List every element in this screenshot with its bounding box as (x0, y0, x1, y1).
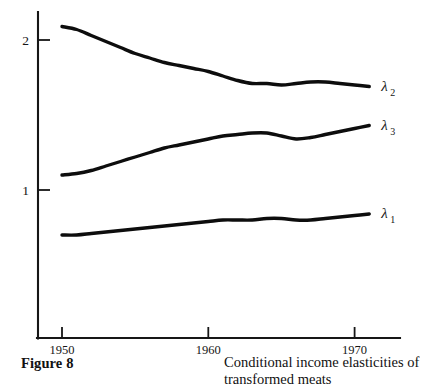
curve-lambda-2 (62, 27, 369, 87)
figure-caption-text: Conditional income elasticities of trans… (224, 354, 421, 387)
lambda-subscript: 2 (390, 87, 395, 98)
curve-lambda-3 (62, 126, 369, 176)
figure-number: Figure 8 (21, 355, 74, 372)
y-axis-ticks: 21 (22, 33, 50, 198)
curve-lambda-1 (62, 214, 369, 235)
series-label-group: λ2λ3λ1 (380, 78, 395, 226)
series-label-lambda-3: λ3 (380, 117, 395, 137)
lambda-symbol: λ (380, 205, 388, 221)
lambda-symbol: λ (380, 117, 388, 133)
x-axis-ticks: 195019601970 (50, 327, 368, 357)
series-label-lambda-1: λ1 (380, 205, 395, 225)
lambda-subscript: 1 (390, 214, 395, 225)
line-chart-plot: 21 195019601970 λ2λ3λ1 (0, 0, 421, 387)
y-tick-label: 2 (22, 33, 29, 48)
figure-container: 21 195019601970 λ2λ3λ1 Figure 8 Conditio… (0, 0, 421, 387)
figure-caption-bar: Figure 8 Conditional income elasticities… (0, 355, 421, 387)
lambda-symbol: λ (380, 78, 388, 94)
series-label-lambda-2: λ2 (380, 78, 395, 98)
y-tick-label: 1 (22, 183, 29, 198)
series-curves (62, 27, 369, 236)
lambda-subscript: 3 (390, 126, 395, 137)
